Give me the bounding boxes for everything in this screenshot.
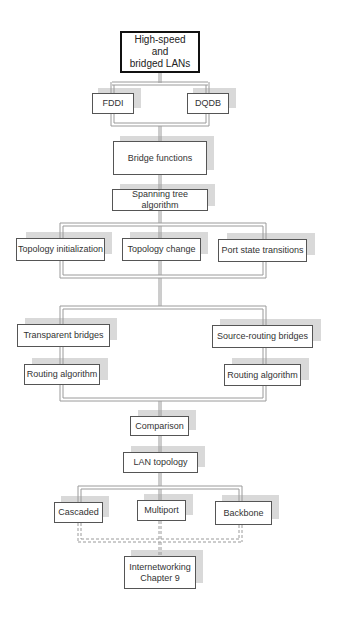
flowchart-diagram: High-speed and bridged LANs FDDI DQDB Br… <box>0 0 340 617</box>
node-routing-algorithm-left: Routing algorithm <box>24 364 100 385</box>
node-bridge-functions: Bridge functions <box>113 141 207 175</box>
node-lan-topology: LAN topology <box>123 452 198 473</box>
node-internetworking-chapter-9: Internetworking Chapter 9 <box>124 556 196 589</box>
node-dqdb: DQDB <box>187 93 229 114</box>
node-port-state-transitions: Port state transitions <box>218 239 307 262</box>
node-fddi: FDDI <box>92 93 134 114</box>
connector-lines <box>0 0 340 617</box>
node-source-routing-bridges: Source-routing bridges <box>212 325 313 348</box>
node-comparison: Comparison <box>130 416 189 436</box>
node-multiport: Multiport <box>137 500 186 521</box>
node-transparent-bridges: Transparent bridges <box>17 324 110 347</box>
node-cascaded: Cascaded <box>54 502 103 523</box>
node-spanning-tree-algorithm: Spanning tree algorithm <box>112 189 208 211</box>
node-backbone: Backbone <box>215 501 272 525</box>
node-routing-algorithm-right: Routing algorithm <box>224 364 301 386</box>
node-high-speed-bridged-lans: High-speed and bridged LANs <box>120 31 200 73</box>
node-topology-initialization: Topology initialization <box>16 238 105 261</box>
node-topology-change: Topology change <box>122 238 201 261</box>
